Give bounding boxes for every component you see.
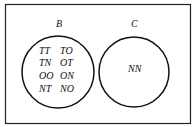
element: NT [38,83,53,94]
venn-diagram: B C TT TO TN OT OO ON NT NO NN [0,0,193,127]
element: NO [59,83,74,94]
element: ON [60,70,75,81]
set-c-label: C [131,18,138,29]
set-b-label: B [56,18,62,29]
element: OO [39,70,53,81]
element: TT [39,45,52,56]
set-b-circle [22,36,94,108]
element: OT [60,57,74,68]
element: NN [127,63,143,74]
element: TN [39,57,53,68]
element: TO [60,45,73,56]
universal-set-border [6,5,191,124]
